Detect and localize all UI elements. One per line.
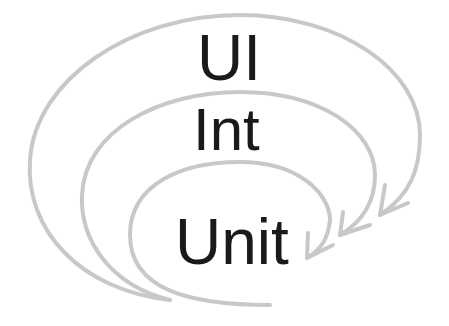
ui-layer-label: UI <box>197 26 261 90</box>
unit-layer-label: Unit <box>175 210 289 274</box>
integration-layer-label: Int <box>193 100 260 160</box>
